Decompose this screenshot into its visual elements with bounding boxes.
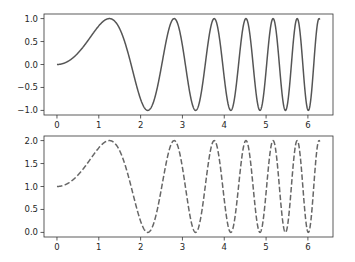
x-tick-label: 6 [305,120,310,130]
top-axes: 0123456−1.0−0.50.00.51.0 [17,14,333,130]
x-tick-label: 6 [305,242,310,252]
y-tick-label: 0.0 [24,227,38,237]
y-tick-label: −1.0 [17,105,38,115]
axes-frame [44,136,333,237]
y-tick-label: −0.5 [17,82,38,92]
data-line [57,141,320,233]
x-tick-label: 2 [138,120,143,130]
axes-frame [44,14,333,115]
x-tick-label: 3 [180,120,185,130]
x-tick-label: 1 [96,120,101,130]
x-tick-label: 4 [222,120,227,130]
y-tick-label: 1.0 [24,14,38,24]
y-tick-label: 0.5 [24,204,38,214]
x-tick-label: 1 [96,242,101,252]
x-tick-label: 0 [54,120,59,130]
x-tick-label: 5 [263,242,268,252]
y-tick-label: 0.0 [24,60,38,70]
data-line [57,19,320,111]
x-tick-label: 5 [263,120,268,130]
figure: 0123456−1.0−0.50.00.51.0 01234560.00.51.… [0,0,355,262]
bottom-axes: 01234560.00.51.01.52.0 [24,136,333,252]
x-tick-label: 0 [54,242,59,252]
y-tick-label: 1.5 [24,159,38,169]
x-tick-label: 2 [138,242,143,252]
x-tick-label: 4 [222,242,227,252]
y-tick-label: 0.5 [24,37,38,47]
x-tick-label: 3 [180,242,185,252]
y-tick-label: 2.0 [24,136,38,146]
y-tick-label: 1.0 [24,182,38,192]
